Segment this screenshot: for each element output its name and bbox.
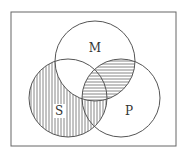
venn-diagram: M S P: [0, 0, 187, 156]
label-s: S: [55, 104, 63, 118]
label-p: P: [125, 104, 133, 118]
label-m: M: [89, 41, 101, 55]
